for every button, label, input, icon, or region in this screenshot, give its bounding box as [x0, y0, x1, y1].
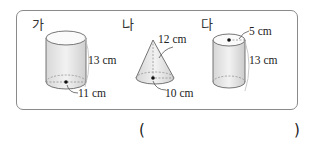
figure-ga-height: 13 cm: [88, 54, 116, 66]
answer-open-paren: (: [139, 121, 145, 139]
answer-blank[interactable]: [150, 120, 290, 140]
figure-na-slant: 12 cm: [158, 33, 186, 45]
figure-na-label: 나: [122, 14, 134, 33]
answer-close-paren: ): [294, 121, 300, 139]
cylinder-ga-icon: [44, 30, 88, 92]
figure-da-radius: 5 cm: [249, 25, 272, 37]
cylinder-da-icon: [211, 32, 247, 92]
figure-ga-diameter: 11 cm: [78, 87, 106, 99]
figure-na-diameter: 10 cm: [165, 87, 193, 99]
figure-da-label: 다: [201, 14, 213, 33]
figure-ga-label: 가: [32, 14, 44, 33]
dimension-arc-da: [244, 40, 254, 92]
leader-line-na-slant: [158, 46, 174, 60]
figure-da-height: 13 cm: [249, 54, 277, 66]
